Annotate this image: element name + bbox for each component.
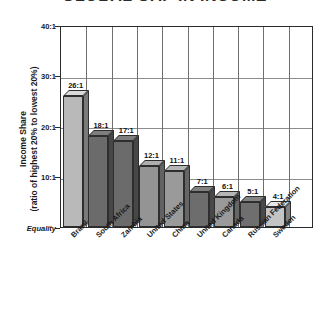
- y-tick-label-40: 40:1: [16, 22, 56, 31]
- y-tick-label-30: 30:1: [16, 72, 56, 81]
- y-axis-title-line1: Income Share: [18, 111, 28, 167]
- chart-title: GLOBAL GAP IN INCOME: [0, 0, 329, 5]
- y-tick-label-20: 20:1: [16, 123, 56, 132]
- bar-united-states[interactable]: [139, 160, 159, 227]
- bar-front-face: [63, 96, 83, 227]
- bar-south-africa[interactable]: [88, 130, 108, 227]
- bar-value-label: 26:1: [53, 81, 99, 90]
- bar-brazil[interactable]: [63, 90, 83, 227]
- plot-area: 26:118:117:112:111:17:16:15:14:1: [60, 26, 313, 228]
- bar-front-face: [88, 136, 108, 227]
- bar-value-label: 17:1: [103, 126, 149, 135]
- gridline-horizontal-30: [61, 78, 312, 79]
- y-tick-label-10: 10:1: [16, 173, 56, 182]
- bar-value-label: 11:1: [154, 156, 200, 165]
- y-tick-label-equality: Equality: [16, 224, 56, 233]
